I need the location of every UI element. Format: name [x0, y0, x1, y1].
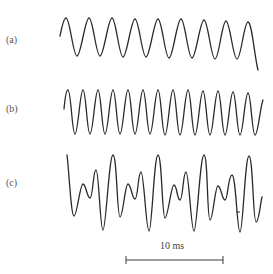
- scale-bar: [126, 256, 223, 264]
- waveform-figure: [0, 0, 273, 274]
- waveform-b: [64, 90, 263, 135]
- waveform-a: [60, 18, 258, 70]
- scale-bar-label: 10 ms: [160, 240, 184, 251]
- waveform-c: [67, 155, 262, 232]
